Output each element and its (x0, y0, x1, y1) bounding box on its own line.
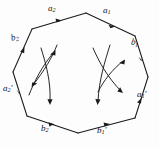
edge-label-b1p-prime-mark: ′ (105, 125, 107, 135)
edge-label-a1p-prime-mark: ′ (145, 89, 147, 99)
edge-label-a2p-prime-mark: ′ (11, 83, 13, 93)
interior-arrows-right (93, 45, 125, 105)
edge-a2-prime (13, 72, 27, 116)
edge-label-a2-prime: a2′ (3, 84, 13, 94)
edge-a1 (86, 13, 135, 36)
arrowhead-b2 (20, 47, 24, 53)
interior-arrows-left (29, 45, 57, 105)
edge-label-a1-sub: 1 (108, 8, 111, 15)
edge-label-b2p-prime-mark: ′ (49, 123, 51, 133)
interior-arrowhead-left-down (32, 82, 38, 87)
octagon-diagram (0, 0, 159, 149)
octagon-outline (13, 13, 148, 133)
edge-label-b2-prime: b2′ (41, 124, 51, 134)
edge-label-a1-prime: a1′ (137, 90, 147, 100)
interior-arrow-left-drop-path (41, 48, 50, 101)
interior-arrowhead-left-drop (47, 99, 52, 105)
edge-label-a1: a1 (103, 6, 111, 16)
figure-canvas: a2 a1 b2 b1 a2′ a1′ b2′ b1′ (0, 0, 159, 149)
interior-arrow-right-drop-path (98, 45, 110, 101)
arrowhead-a2 (56, 19, 63, 23)
interior-arrowhead-right-drop (95, 99, 100, 105)
edge-label-b1-prime: b1′ (97, 126, 107, 136)
edge-label-a2-sub: 2 (53, 6, 56, 13)
edge-label-b1: b1 (130, 37, 139, 48)
edge-label-a2: a2 (48, 4, 56, 14)
